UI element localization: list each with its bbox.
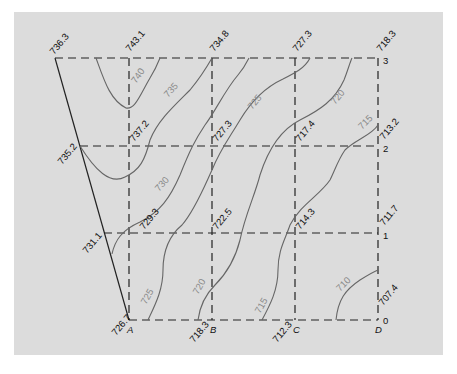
contour-label-725-a: 725	[138, 287, 155, 306]
spot-d0: 707.4	[376, 282, 400, 307]
spot-c1: 714.3	[293, 206, 317, 231]
spot-a3: 743.1	[123, 28, 147, 53]
row-label-1: 1	[383, 230, 388, 241]
contour-label-710: 710	[334, 274, 353, 293]
spot-c0: 712.3	[270, 319, 294, 344]
spot-b2: 727.3	[210, 118, 234, 143]
spot-b1: 722.5	[210, 206, 234, 231]
spot-d3: 718.3	[374, 28, 398, 53]
spot-a2: 737.2	[127, 118, 151, 143]
spot-d1: 711.7	[377, 203, 400, 228]
contour-map: 740 735 730 725 725 720 720 715 715 710 …	[0, 0, 457, 374]
spot-b0: 718.3	[187, 319, 211, 344]
spot-c3: 727.3	[290, 28, 314, 53]
row-label-0: 0	[383, 315, 388, 326]
contour-label-720-a: 720	[190, 277, 207, 296]
contour-715	[262, 125, 378, 320]
contour-730	[112, 58, 249, 254]
row-label-3: 3	[383, 55, 388, 66]
contour-label-730: 730	[152, 174, 171, 193]
spot-d2: 713.2	[377, 116, 401, 141]
spot-left-row1: 731.1	[80, 230, 104, 255]
row-label-2: 2	[383, 143, 388, 154]
contour-725-left	[148, 58, 310, 320]
col-label-c: C	[293, 324, 300, 335]
contour-label-715-a: 715	[252, 296, 269, 315]
spot-elevations: 736.3 743.1 734.8 727.3 718.3 735.2 737.…	[47, 28, 401, 344]
contour-label-735: 735	[161, 80, 180, 99]
col-label-a: A	[126, 324, 133, 335]
spot-b3: 734.8	[207, 28, 231, 53]
left-boundary-line	[55, 58, 129, 320]
contour-label-715-b: 715	[356, 112, 375, 131]
contour-740	[96, 58, 160, 108]
contour-labels: 740 735 730 725 725 720 720 715 715 710	[129, 66, 375, 315]
contour-735	[80, 58, 212, 179]
contour-label-720-b: 720	[328, 87, 347, 106]
spot-left-row2: 735.2	[55, 141, 79, 166]
contour-label-740: 740	[129, 66, 147, 85]
col-label-d: D	[375, 324, 382, 335]
col-label-b: B	[210, 324, 217, 335]
spot-corner-top-left: 736.3	[47, 31, 71, 56]
